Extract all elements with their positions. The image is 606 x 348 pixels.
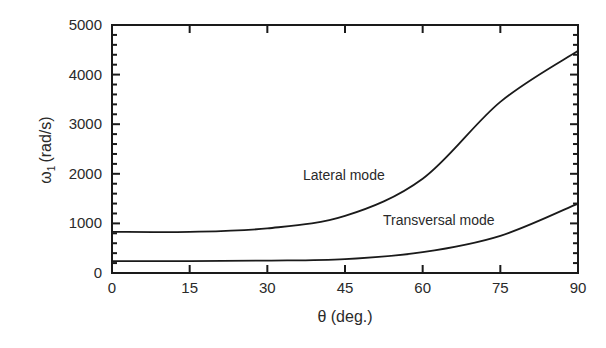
x-tick-label: 75 xyxy=(492,279,509,296)
y-axis-symbol: ω xyxy=(37,171,54,184)
x-tick-label: 15 xyxy=(181,279,198,296)
lateral-mode-label: Lateral mode xyxy=(303,167,385,183)
y-tick-label: 0 xyxy=(94,264,102,281)
plot-frame xyxy=(112,25,578,273)
y-axis-subscript: 1 xyxy=(46,165,57,171)
x-tick-label: 90 xyxy=(570,279,587,296)
x-tick-label: 0 xyxy=(108,279,116,296)
y-axis-unit: (rad/s) xyxy=(37,116,54,162)
x-tick-label: 60 xyxy=(414,279,431,296)
y-tick-label: 2000 xyxy=(69,165,102,182)
x-axis-ticks: 0153045607590 xyxy=(108,25,587,296)
series-lines xyxy=(112,51,578,261)
chart: 010002000300040005000 0153045607590 Late… xyxy=(0,0,606,348)
y-tick-label: 1000 xyxy=(69,214,102,231)
y-axis-label: ω1(rad/s) xyxy=(37,116,57,183)
y-axis-ticks: 010002000300040005000 xyxy=(69,16,578,281)
y-tick-label: 3000 xyxy=(69,115,102,132)
transversal-mode-label: Transversal mode xyxy=(383,212,495,228)
lateral-mode-line xyxy=(112,51,578,232)
x-tick-label: 30 xyxy=(259,279,276,296)
y-tick-label: 4000 xyxy=(69,66,102,83)
svg-text:ω1(rad/s): ω1(rad/s) xyxy=(37,116,57,183)
x-axis-label: θ (deg.) xyxy=(317,308,372,325)
y-tick-label: 5000 xyxy=(69,16,102,33)
x-tick-label: 45 xyxy=(337,279,354,296)
